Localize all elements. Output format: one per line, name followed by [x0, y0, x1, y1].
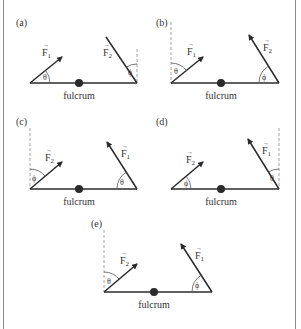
vector-arrow-glyph: → [122, 143, 128, 149]
force-label-f2: F2 [103, 47, 113, 60]
vector-arrow-glyph: → [263, 140, 269, 146]
force-label-f2: F2 [263, 42, 273, 55]
angle-arc-phi [127, 64, 138, 67]
angle-label-theta: θ [174, 67, 178, 76]
angle-label-theta: θ [270, 174, 274, 183]
lever-diagram: (a) fulcrum θ F1 → ϕ F2 → (b) fulcrum θ … [0, 0, 301, 329]
panel-e: (e) fulcrum θ F2 → ϕ F1 → [91, 218, 212, 310]
angle-label-phi: ϕ [262, 73, 266, 82]
fulcrum-label: fulcrum [63, 196, 95, 207]
angle-label-phi: ϕ [195, 281, 199, 290]
vector-arrow-glyph: → [43, 42, 49, 48]
force-label-f1: F1 [195, 250, 205, 263]
fulcrum-dot [217, 79, 225, 87]
angle-label-phi: ϕ [128, 68, 132, 77]
fulcrum-label: fulcrum [205, 196, 237, 207]
force-line-f2 [106, 37, 137, 83]
vector-arrow-glyph: → [187, 149, 193, 155]
vector-arrow-glyph: → [196, 245, 202, 251]
panel-label-b: (b) [156, 17, 168, 29]
panel-c: (c) fulcrum ϕ F2 → θ F1 → [16, 116, 137, 207]
panel-label-c: (c) [16, 116, 27, 128]
angle-label-theta: θ [120, 178, 124, 187]
fulcrum-label: fulcrum [138, 299, 170, 310]
force-label-f1: F1 [121, 148, 131, 161]
panel-label-e: (e) [91, 218, 102, 230]
angle-label-phi: ϕ [184, 179, 188, 188]
force-label-f1: F1 [42, 47, 52, 60]
fulcrum-label: fulcrum [63, 90, 95, 101]
fulcrum-label: fulcrum [205, 90, 237, 101]
force-label-f1: F1 [187, 46, 197, 59]
fulcrum-dot [75, 79, 83, 87]
fulcrum-dot [150, 288, 158, 296]
force-label-f1: F1 [262, 145, 272, 158]
panel-d: (d) fulcrum ϕ F2 → θ F1 → [156, 116, 279, 207]
vector-arrow-glyph: → [188, 41, 194, 47]
fulcrum-dot [217, 185, 225, 193]
angle-label-theta: θ [107, 277, 111, 286]
vector-arrow-glyph: → [121, 250, 127, 256]
angle-arc-theta [269, 169, 280, 172]
panel-label-d: (d) [156, 116, 168, 128]
force-label-f2: F2 [120, 255, 130, 268]
vector-arrow-glyph: → [264, 37, 270, 43]
vector-arrow-glyph: → [104, 42, 110, 48]
panel-label-a: (a) [16, 17, 27, 29]
force-label-f2: F2 [186, 154, 196, 167]
angle-label-theta: θ [43, 73, 47, 82]
angle-label-phi: ϕ [32, 174, 36, 183]
panel-a: (a) fulcrum θ F1 → ϕ F2 → [16, 17, 137, 101]
panel-b: (b) fulcrum θ F1 → ϕ F2 → [156, 17, 279, 101]
fulcrum-dot [75, 185, 83, 193]
force-label-f2: F2 [45, 152, 55, 165]
vector-arrow-glyph: → [46, 147, 52, 153]
